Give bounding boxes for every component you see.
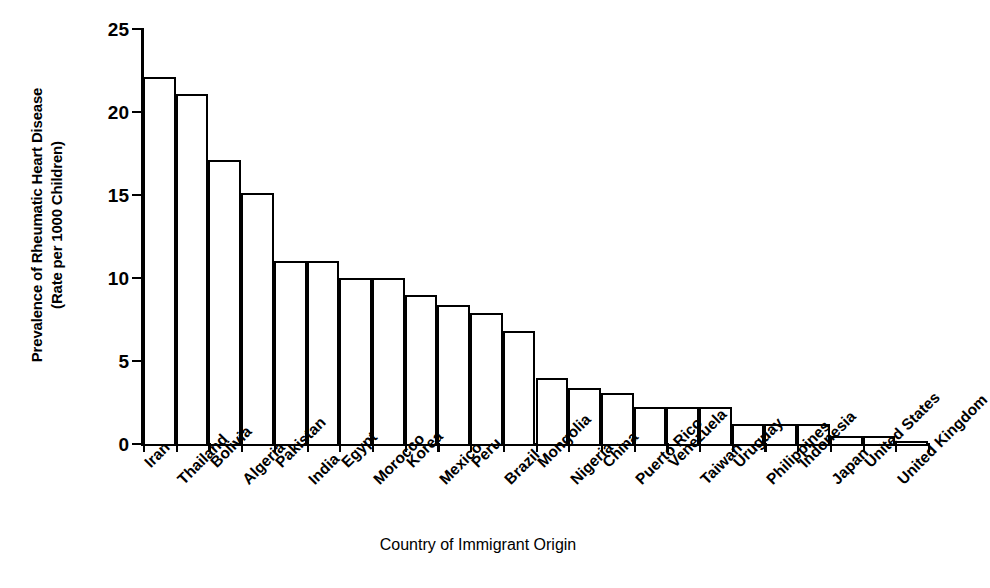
y-axis-title-line-1: Prevalence of Rheumatic Heart Disease [27,10,47,440]
x-tick-0 [143,443,145,452]
bar-egypt [339,278,372,444]
y-tick-25 [132,28,143,31]
y-tick-label-25: 25 [108,20,129,39]
y-axis-title: Prevalence of Rheumatic Heart Disease (R… [27,10,67,440]
bar-korea [405,295,438,444]
y-axis-title-line-2: (Rate per 1000 Children) [47,10,67,440]
x-label-japan: Japan [829,445,872,488]
x-axis-title: Country of Immigrant Origin [0,536,956,554]
y-tick-label-15: 15 [108,186,129,205]
y-tick-5 [132,360,143,363]
x-label-brazil: Brazil [502,446,543,487]
bar-brazil [503,331,536,444]
y-tick-label-5: 5 [118,352,129,371]
bar-thailand [176,94,209,444]
bar-algeria [241,193,274,444]
bar-peru [470,313,503,444]
y-tick-0 [132,443,143,446]
y-tick-label-20: 20 [108,103,129,122]
x-tick-6 [339,443,341,452]
y-tick-15 [132,194,143,197]
plot-area: 0510152025 [143,29,928,444]
y-tick-label-0: 0 [118,435,129,454]
y-tick-20 [132,111,143,114]
bar-india [307,261,340,444]
y-tick-10 [132,277,143,280]
bar-mexico [437,305,470,444]
bar-iran [143,77,176,444]
bar-pakistan [274,261,307,444]
bar-morocco [372,278,405,444]
y-tick-label-10: 10 [108,269,129,288]
x-tick-1 [176,443,178,452]
x-label-india: India [305,451,342,488]
bar-bolivia [208,160,241,444]
